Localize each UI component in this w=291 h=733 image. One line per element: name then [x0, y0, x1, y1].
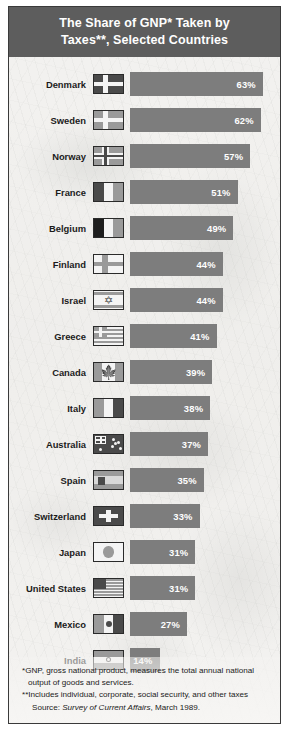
value-bar: 62% — [130, 108, 261, 132]
source-publication: Survey of Current Affairs — [62, 703, 150, 712]
flag-belgium-icon — [93, 218, 124, 238]
country-label: Switzerland — [9, 511, 93, 522]
flag-switzerland-icon — [93, 506, 124, 526]
country-label: Mexico — [9, 619, 93, 630]
bar-row: Finland44% — [9, 246, 280, 282]
bar-value-label: 31% — [169, 547, 188, 558]
flag-sweden-icon — [93, 110, 124, 130]
bar-value-label: 27% — [161, 619, 180, 630]
bar-row: Spain35% — [9, 462, 280, 498]
bar-row: France51% — [9, 174, 280, 210]
value-bar: 31% — [130, 576, 195, 600]
chart-title-line2: Taxes**, Selected Countries — [21, 32, 268, 49]
source-prefix: Source: — [32, 703, 62, 712]
bar-value-label: 51% — [211, 187, 230, 198]
value-bar: 31% — [130, 540, 195, 564]
bar-row: Mexico27% — [9, 606, 280, 642]
country-label: United States — [9, 583, 93, 594]
country-label: Israel — [9, 295, 93, 306]
country-label: Greece — [9, 331, 93, 342]
flag-spain-icon — [93, 470, 124, 490]
footnote-source: Source: Survey of Current Affairs, March… — [18, 702, 268, 713]
bar-value-label: 49% — [207, 223, 226, 234]
bar-row: Australia37% — [9, 426, 280, 462]
bar-row: Sweden62% — [9, 102, 280, 138]
source-date: , March 1989. — [150, 703, 200, 712]
chart-title-line1: The Share of GNP* Taken by — [21, 15, 268, 32]
country-label: Finland — [9, 259, 93, 270]
bar-value-label: 35% — [177, 475, 196, 486]
country-label: Norway — [9, 151, 93, 162]
value-bar: 35% — [130, 468, 204, 492]
footnote-gnp: *GNP, gross national product, measures t… — [18, 665, 268, 688]
bar-value-label: 44% — [196, 259, 215, 270]
chart-title: The Share of GNP* Taken by Taxes**, Sele… — [9, 7, 280, 57]
footnote-gnp-line2: output of goods and services. — [28, 678, 134, 687]
value-bar: 27% — [130, 612, 187, 636]
flag-mexico-icon — [93, 614, 124, 634]
country-label: Denmark — [9, 79, 93, 90]
bar-row: Belgium49% — [9, 210, 280, 246]
country-label: Sweden — [9, 115, 93, 126]
bar-chart-rows: Denmark63%Sweden62%Norway57%France51%Bel… — [9, 57, 280, 678]
bar-row: Canada🍁39% — [9, 354, 280, 390]
value-bar: 49% — [130, 216, 233, 240]
value-bar: 41% — [130, 324, 217, 348]
bar-value-label: 57% — [224, 151, 243, 162]
flag-israel-icon: ✡ — [93, 290, 124, 310]
country-label: Canada — [9, 367, 93, 378]
bar-row: Greece41% — [9, 318, 280, 354]
value-bar: 63% — [130, 72, 263, 96]
flag-denmark-icon — [93, 74, 124, 94]
bar-value-label: 62% — [234, 115, 253, 126]
bar-row: Italy38% — [9, 390, 280, 426]
value-bar: 38% — [130, 396, 210, 420]
infographic-poster: The Share of GNP* Taken by Taxes**, Sele… — [8, 6, 281, 724]
bar-value-label: 44% — [196, 295, 215, 306]
bar-row: United States31% — [9, 570, 280, 606]
flag-norway-icon — [93, 146, 124, 166]
bar-row: Denmark63% — [9, 66, 280, 102]
value-bar: 44% — [130, 252, 223, 276]
country-label: Spain — [9, 475, 93, 486]
footnote-gnp-line1: *GNP, gross national product, measures t… — [22, 666, 254, 675]
value-bar: 44% — [130, 288, 223, 312]
bar-value-label: 41% — [190, 331, 209, 342]
footnote-taxes: **Includes individual, corporate, social… — [18, 689, 268, 700]
value-bar: 39% — [130, 360, 212, 384]
bar-row: Israel✡44% — [9, 282, 280, 318]
bar-row: Japan31% — [9, 534, 280, 570]
country-label: Australia — [9, 439, 93, 450]
flag-italy-icon — [93, 398, 124, 418]
bar-value-label: 39% — [186, 367, 205, 378]
bar-value-label: 38% — [184, 403, 203, 414]
flag-japan-icon — [93, 542, 124, 562]
footnotes: *GNP, gross national product, measures t… — [9, 657, 280, 723]
country-label: Japan — [9, 547, 93, 558]
bar-value-label: 37% — [182, 439, 201, 450]
flag-finland-icon — [93, 254, 124, 274]
country-label: Italy — [9, 403, 93, 414]
flag-greece-icon — [93, 326, 124, 346]
flag-canada-icon: 🍁 — [93, 362, 124, 382]
flag-france-icon — [93, 182, 124, 202]
bar-value-label: 33% — [173, 511, 192, 522]
bar-row: Norway57% — [9, 138, 280, 174]
country-label: France — [9, 187, 93, 198]
value-bar: 51% — [130, 180, 238, 204]
flag-australia-icon — [93, 434, 124, 454]
bar-value-label: 63% — [237, 79, 256, 90]
value-bar: 37% — [130, 432, 208, 456]
bar-row: Switzerland33% — [9, 498, 280, 534]
country-label: Belgium — [9, 223, 93, 234]
value-bar: 33% — [130, 504, 200, 528]
bar-value-label: 31% — [169, 583, 188, 594]
value-bar: 57% — [130, 144, 250, 168]
flag-united-states-icon — [93, 578, 124, 598]
